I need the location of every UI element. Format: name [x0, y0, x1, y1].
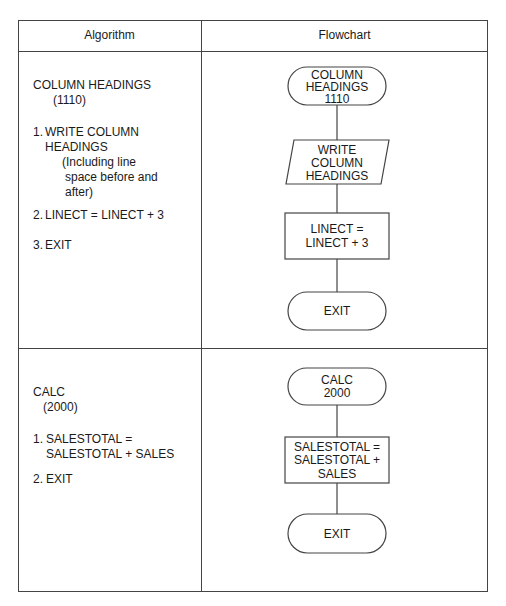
io-label: HEADINGS [306, 169, 369, 183]
terminal-label: EXIT [324, 304, 351, 318]
terminal-label: CALC [321, 373, 353, 387]
process-label: LINECT = [311, 222, 364, 236]
process-label: LINECT + 3 [306, 236, 369, 250]
io-label: COLUMN [311, 156, 363, 170]
terminal-label: 1110 [325, 92, 350, 106]
terminal-label: EXIT [324, 527, 351, 541]
io-label: WRITE [318, 143, 357, 157]
process-label: SALES [318, 467, 357, 481]
terminal-label: 2000 [324, 386, 351, 400]
process-label: SALESTOTAL = [294, 440, 380, 454]
flowchart-diagram: COLUMN HEADINGS 1110 WRITE COLUMN HEADIN… [0, 0, 506, 606]
process-label: SALESTOTAL + [294, 453, 380, 467]
